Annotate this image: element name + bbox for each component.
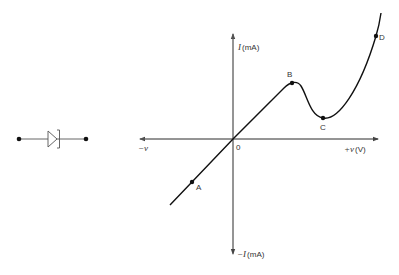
point-a-label: A [196,183,202,192]
y-axis-positive-label: I(mA) [237,42,260,52]
point-d-label: D [379,33,385,42]
point-b-marker [290,81,294,85]
point-c-label: C [320,123,326,132]
diagram-canvas: A B C D I(mA) −I(mA) +v(V) −v 0 [0,0,399,275]
point-c-marker [321,116,325,120]
diode-triangle-icon [48,131,57,147]
origin-label: 0 [236,143,241,152]
axes [140,34,378,254]
diode-terminal-right [84,137,89,142]
y-axis-negative-label: −I(mA) [237,249,265,259]
point-d-marker [374,34,378,38]
point-a-marker [190,180,194,184]
x-axis-positive-label: +v(V) [344,144,366,154]
tunnel-diode-symbol [17,130,89,148]
point-b-label: B [287,70,292,79]
diode-terminal-left [17,137,22,142]
iv-curve [170,13,381,205]
x-axis-negative-label: −v [138,143,148,153]
